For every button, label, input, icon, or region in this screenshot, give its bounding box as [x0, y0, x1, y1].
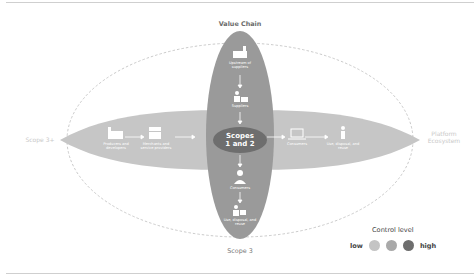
scopes-1-2-label: Scopes 1 and 2 [213, 132, 267, 148]
control-level-legend: low high [350, 240, 436, 251]
high-control-dot [403, 240, 414, 251]
scope-3-plus-label: Scope 3+ [20, 136, 60, 143]
chain-label: Producers and developers [98, 142, 134, 150]
value-chain-title: Value Chain [200, 20, 280, 28]
center-line-2: 1 and 2 [213, 140, 267, 148]
chain-label: Use, disposal, and reuse [222, 218, 258, 226]
scope-3-label: Scope 3 [200, 247, 280, 255]
chain-label: Merchants and service providers [138, 142, 174, 150]
legend-low-label: low [350, 242, 363, 250]
chain-label: Consumers [222, 186, 258, 190]
low-control-dot [369, 240, 380, 251]
center-line-1: Scopes [213, 132, 267, 140]
chain-label: Suppliers [222, 104, 258, 108]
walker-icon [341, 126, 345, 139]
legend-high-label: high [420, 242, 436, 250]
legend-title: Control level [372, 226, 414, 234]
platform-ecosystem-label: Platform Ecosystem [422, 130, 466, 144]
store-icon [149, 127, 161, 139]
chain-label: Use, disposal, and reuse [325, 142, 361, 150]
medium-control-dot [386, 240, 397, 251]
chain-label: Consumers [279, 142, 315, 146]
chain-label: Upstream of suppliers [222, 61, 258, 69]
